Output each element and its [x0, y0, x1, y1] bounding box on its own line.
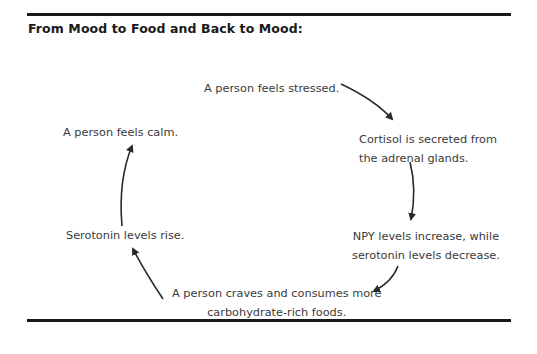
cycle-arrows: [0, 0, 537, 354]
arrow-serotonin-to-calm: [121, 146, 132, 226]
arrow-npy-to-craves: [374, 266, 398, 291]
arrow-craves-to-serotonin: [133, 249, 163, 299]
arrow-stressed-to-cortisol: [341, 84, 392, 119]
bottom-rule: [27, 319, 511, 322]
arrow-cortisol-to-npy: [410, 162, 414, 219]
